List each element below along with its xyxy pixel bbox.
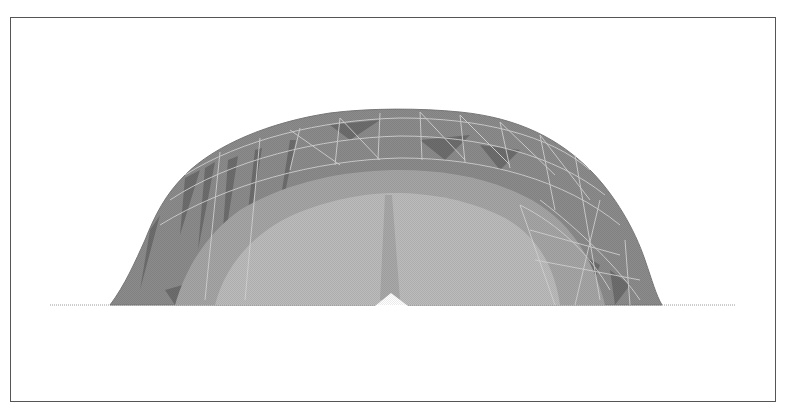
mesh-figure — [0, 0, 795, 419]
scan-texture — [110, 109, 662, 305]
